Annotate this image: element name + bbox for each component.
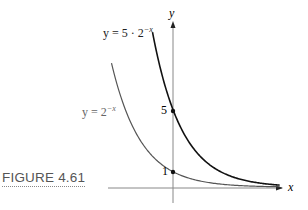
y-axis-arrow-icon	[171, 21, 176, 28]
series-label-text: y = 5 · 2	[103, 26, 144, 40]
y-axis-label: y	[169, 6, 174, 21]
curve-5-2-neg-x	[153, 32, 280, 185]
point-y-intercept-1	[171, 170, 175, 174]
series-label-text: y = 2	[82, 105, 107, 119]
series-label-exponent: −x	[144, 25, 153, 34]
point-y-intercept-5	[171, 109, 175, 113]
curve-2-neg-x	[112, 63, 280, 187]
series-label-5-2-neg-x: y = 5 · 2−x	[103, 25, 153, 41]
tick-label-1: 1	[162, 164, 168, 179]
figure-caption: FIGURE 4.61	[2, 170, 85, 187]
series-label-2-neg-x: y = 2−x	[82, 104, 116, 120]
x-axis-label: x	[288, 180, 293, 195]
series-label-exponent: −x	[107, 104, 116, 113]
tick-label-5: 5	[161, 103, 167, 118]
